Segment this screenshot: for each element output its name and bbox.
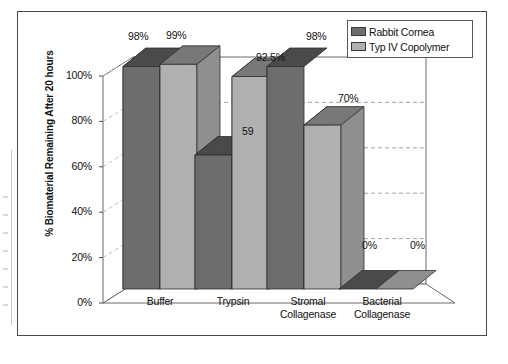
y-axis-ticks bbox=[99, 76, 103, 303]
scan-artifact bbox=[3, 232, 8, 234]
scan-artifact bbox=[3, 268, 8, 270]
scan-artifact bbox=[3, 214, 8, 216]
data-label-bacterial-collagenase-typ-iv-copolymer: 0% bbox=[410, 239, 425, 251]
bar-stromal-collagenase-typ-iv-copolymer[interactable] bbox=[304, 107, 364, 289]
data-label-bacterial-collagenase-rabbit-cornea: 0% bbox=[362, 239, 377, 251]
y-tick-label: 60% bbox=[46, 160, 92, 172]
scan-artifact bbox=[3, 250, 8, 252]
legend-swatch-icon bbox=[351, 42, 366, 51]
legend-label: Typ IV Copolymer bbox=[369, 41, 449, 53]
scan-edge-line bbox=[11, 150, 12, 325]
chart-frame: % Biomaterial Remaining After 20 hours 1… bbox=[17, 11, 487, 336]
chart-legend: Rabbit Cornea Typ IV Copolymer bbox=[347, 20, 473, 58]
y-tick-label: 20% bbox=[46, 251, 92, 263]
y-tick-label: 100% bbox=[46, 69, 92, 81]
scan-artifact bbox=[3, 286, 8, 288]
data-label-stromal-collagenase-rabbit-cornea: 98% bbox=[306, 30, 326, 42]
y-tick-label: 80% bbox=[46, 114, 92, 126]
x-label-line: Bacterial bbox=[330, 295, 434, 308]
scan-artifact bbox=[3, 304, 8, 306]
data-label-trypsin-typ-iv-copolymer: 92.5% bbox=[256, 51, 285, 63]
x-label-line: Collagenase bbox=[330, 308, 434, 321]
y-tick-label: 40% bbox=[46, 205, 92, 217]
data-label-buffer-rabbit-cornea: 98% bbox=[128, 30, 148, 42]
data-label-buffer-typ-iv-copolymer: 99% bbox=[166, 29, 186, 41]
x-label-bacterial-collagenase: Bacterial Collagenase bbox=[330, 295, 434, 320]
scan-artifact bbox=[3, 196, 8, 198]
legend-item-rabbit-cornea[interactable]: Rabbit Cornea bbox=[351, 24, 468, 39]
data-label-stromal-collagenase-typ-iv-copolymer: 70% bbox=[338, 92, 358, 104]
data-label-trypsin-rabbit-cornea: 59 bbox=[242, 125, 253, 137]
legend-label: Rabbit Cornea bbox=[369, 26, 434, 38]
y-tick-label: 0% bbox=[46, 296, 92, 308]
legend-swatch-icon bbox=[351, 27, 366, 36]
legend-item-typ-iv-copolymer[interactable]: Typ IV Copolymer bbox=[351, 39, 468, 54]
chart-3d-canvas bbox=[18, 12, 488, 337]
chart-plot-area: % Biomaterial Remaining After 20 hours 1… bbox=[18, 12, 488, 337]
